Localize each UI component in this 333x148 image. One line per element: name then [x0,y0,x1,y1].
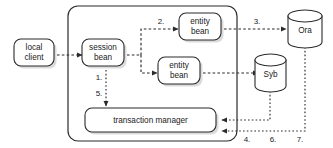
transaction-manager-label: transaction manager [113,116,188,125]
step-label-7: 7. [297,135,304,144]
node-entity-bean-top[interactable]: entity bean [179,13,221,40]
node-database-syb[interactable]: Syb [255,54,286,92]
entity-bean-bottom-label-line1: entity [169,61,189,70]
node-transaction-manager[interactable]: transaction manager [85,108,216,132]
local-client-label-line1: local [26,43,43,52]
session-bean-label-line1: session [89,43,117,52]
step-label-6: 6. [270,135,277,144]
database-syb-label: Syb [263,70,278,79]
node-session-bean[interactable]: session bean [82,39,124,66]
node-local-client[interactable]: local client [14,39,54,66]
step-label-1: 1. [96,73,103,82]
edge-session-to-entity-bottom [141,55,157,73]
step-label-4: 4. [244,135,251,144]
edge-session-to-entity-top [141,29,178,55]
edge-syb-to-transaction-manager [222,91,270,120]
session-bean-label-line2: bean [94,53,113,62]
diagram-canvas: local client session bean entity bean en… [0,0,333,148]
ejb-transaction-flow-diagram: local client session bean entity bean en… [0,0,333,148]
node-database-ora[interactable]: Ora [288,10,322,48]
node-entity-bean-bottom[interactable]: entity bean [158,57,200,84]
entity-bean-top-label-line1: entity [190,17,210,26]
step-label-3: 3. [254,17,261,26]
database-ora-label: Ora [298,26,312,35]
local-client-label-line2: client [24,53,44,62]
entity-bean-bottom-label-line2: bean [170,71,189,80]
step-label-2: 2. [158,17,165,26]
step-label-5: 5. [96,89,103,98]
entity-bean-top-label-line2: bean [191,27,210,36]
